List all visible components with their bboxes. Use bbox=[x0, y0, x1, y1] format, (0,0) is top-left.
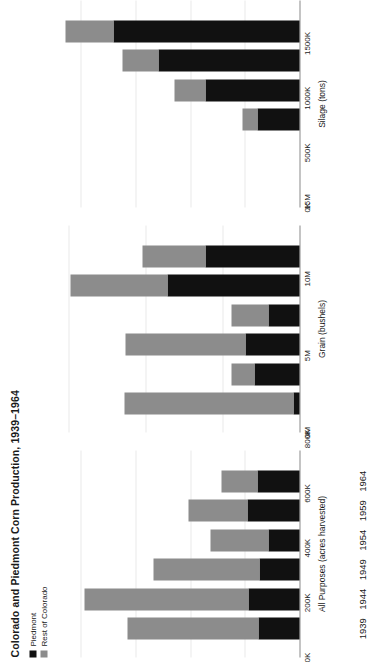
axis-tick-label: 600K bbox=[302, 484, 311, 503]
stacked-bar[interactable] bbox=[142, 245, 299, 267]
bar-segment-rest-of-colorado[interactable] bbox=[122, 49, 158, 71]
axis-tick-label: 0K bbox=[302, 202, 311, 212]
stacked-bar[interactable] bbox=[153, 558, 299, 580]
bar-segment-rest-of-colorado[interactable] bbox=[210, 529, 267, 551]
bar-segment-rest-of-colorado[interactable] bbox=[231, 304, 268, 326]
plot-area-silage bbox=[54, 0, 300, 207]
bar-segment-piedmont[interactable] bbox=[293, 392, 299, 414]
value-axis-grain: 0M5M10M15M bbox=[300, 225, 314, 432]
bar-segment-piedmont[interactable] bbox=[248, 588, 299, 610]
legend-item-piedmont: Piedmont bbox=[27, 586, 38, 657]
axis-tick-label: 400K bbox=[302, 538, 311, 557]
stacked-bar[interactable] bbox=[70, 274, 299, 296]
bar-group bbox=[54, 0, 299, 207]
stacked-bar[interactable] bbox=[231, 363, 299, 385]
category-label-1959: 1959 bbox=[356, 500, 367, 521]
page-title: Colorado and Piedmont Corn Production, 1… bbox=[8, 390, 20, 657]
bar-segment-piedmont[interactable] bbox=[258, 617, 299, 639]
axis-tick-label: 5M bbox=[302, 350, 311, 361]
bar-segment-piedmont[interactable] bbox=[259, 558, 299, 580]
stacked-bar[interactable] bbox=[124, 392, 299, 414]
axis-title-all-purposes: All Purposes (acres harvested) bbox=[316, 450, 326, 657]
bar-segment-rest-of-colorado[interactable] bbox=[153, 558, 260, 580]
legend: Piedmont Rest of Colorado bbox=[27, 586, 49, 657]
legend-swatch-rest-of-colorado bbox=[40, 650, 47, 657]
stacked-bar[interactable] bbox=[65, 20, 299, 42]
plot-area-all-purposes bbox=[54, 450, 300, 657]
stacked-bar[interactable] bbox=[221, 470, 299, 492]
axis-tick-label: 1000K bbox=[302, 86, 311, 109]
bar-segment-rest-of-colorado[interactable] bbox=[125, 333, 245, 355]
bar-segment-piedmont[interactable] bbox=[245, 333, 299, 355]
bar-segment-rest-of-colorado[interactable] bbox=[65, 20, 113, 42]
bar-segment-rest-of-colorado[interactable] bbox=[221, 470, 257, 492]
value-axis-all-purposes: 0K200K400K600K800K bbox=[300, 450, 314, 657]
stacked-bar[interactable] bbox=[127, 617, 299, 639]
bar-segment-piedmont[interactable] bbox=[257, 108, 299, 130]
legend-label-piedmont: Piedmont bbox=[27, 612, 38, 646]
panel-silage: 0K500K1000K1500K2000KSilage (tons) bbox=[54, 0, 350, 207]
category-label-1954: 1954 bbox=[356, 529, 367, 550]
bar-segment-piedmont[interactable] bbox=[167, 274, 299, 296]
bar-segment-rest-of-colorado[interactable] bbox=[84, 588, 248, 610]
stacked-bar[interactable] bbox=[210, 529, 299, 551]
bar-segment-piedmont[interactable] bbox=[247, 499, 299, 521]
axis-tick-label: 500K bbox=[302, 143, 311, 162]
stacked-bar[interactable] bbox=[122, 49, 299, 71]
bar-segment-piedmont[interactable] bbox=[268, 529, 299, 551]
bar-segment-piedmont[interactable] bbox=[254, 363, 299, 385]
bar-segment-rest-of-colorado[interactable] bbox=[242, 108, 257, 130]
bar-segment-rest-of-colorado[interactable] bbox=[124, 392, 293, 414]
bar-segment-rest-of-colorado[interactable] bbox=[231, 363, 254, 385]
bar-segment-piedmont[interactable] bbox=[113, 20, 299, 42]
axis-tick-label: 1500K bbox=[302, 31, 311, 54]
axis-tick-label: 0K bbox=[302, 652, 311, 662]
bar-segment-piedmont[interactable] bbox=[268, 304, 299, 326]
bar-segment-rest-of-colorado[interactable] bbox=[188, 499, 247, 521]
axis-title-grain: Grain (bushels) bbox=[316, 225, 326, 432]
stacked-bar[interactable] bbox=[84, 588, 299, 610]
bar-segment-rest-of-colorado[interactable] bbox=[70, 274, 167, 296]
panel-container: 0K200K400K600K800KAll Purposes (acres ha… bbox=[54, 0, 350, 657]
category-label-1949: 1949 bbox=[356, 559, 367, 580]
panel-grain: 0M5M10M15MGrain (bushels) bbox=[54, 225, 350, 432]
bar-group bbox=[54, 450, 299, 657]
bar-segment-piedmont[interactable] bbox=[205, 79, 299, 101]
axis-tick-label: 0M bbox=[302, 426, 311, 437]
bar-segment-piedmont[interactable] bbox=[205, 245, 299, 267]
category-label-1944: 1944 bbox=[356, 588, 367, 609]
legend-swatch-piedmont bbox=[29, 650, 36, 657]
legend-item-rest-of-colorado: Rest of Colorado bbox=[38, 586, 49, 657]
category-axis: 193919441949195419591964 bbox=[356, 0, 380, 657]
value-axis-silage: 0K500K1000K1500K2000K bbox=[300, 0, 314, 207]
legend-label-rest-of-colorado: Rest of Colorado bbox=[38, 586, 49, 646]
stacked-bar[interactable] bbox=[242, 108, 299, 130]
bar-group bbox=[54, 225, 299, 432]
bar-segment-rest-of-colorado[interactable] bbox=[174, 79, 205, 101]
bar-segment-rest-of-colorado[interactable] bbox=[142, 245, 205, 267]
stacked-bar[interactable] bbox=[231, 304, 299, 326]
axis-title-silage: Silage (tons) bbox=[316, 0, 326, 207]
bar-segment-rest-of-colorado[interactable] bbox=[127, 617, 258, 639]
category-label-1939: 1939 bbox=[356, 618, 367, 639]
stacked-bar[interactable] bbox=[188, 499, 299, 521]
category-label-1964: 1964 bbox=[356, 470, 367, 491]
panel-all-purposes: 0K200K400K600K800KAll Purposes (acres ha… bbox=[54, 450, 350, 657]
bar-segment-piedmont[interactable] bbox=[257, 470, 299, 492]
stacked-bar[interactable] bbox=[125, 333, 299, 355]
axis-tick-label: 200K bbox=[302, 593, 311, 612]
stacked-bar[interactable] bbox=[174, 79, 299, 101]
bar-segment-piedmont[interactable] bbox=[158, 49, 299, 71]
axis-tick-label: 10M bbox=[302, 270, 311, 286]
plot-area-grain bbox=[54, 225, 300, 432]
